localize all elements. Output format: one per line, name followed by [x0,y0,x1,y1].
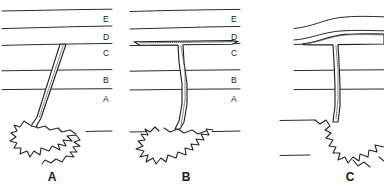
panel-c: C [280,16,384,184]
strata-boundary-line [2,89,112,90]
layer-label-c: C [231,48,237,58]
strata-boundary-line [130,26,240,29]
panel-a-pluton [10,121,80,164]
panel-a: E D C B A A [2,9,112,184]
panel-a-layer-labels: E D C B A [103,14,109,104]
panel-label-a: A [48,170,57,184]
panel-b: E D C B A B [130,9,240,184]
dike-body [31,44,66,127]
layer-label-b: B [231,75,237,85]
strata-boundary-line [2,9,112,11]
figure-canvas: E D C B A A E D [0,0,384,187]
strata-boundary-line [212,131,240,132]
geology-cross-section-figure: E D C B A A E D [0,0,384,187]
panel-c-laccolith [303,34,384,122]
layer-label-a: A [231,94,237,104]
strata-boundary-line [130,9,240,11]
sill-and-dike-body [134,41,238,129]
strata-boundary-domed-line [294,16,384,28]
magma-body-detail [379,157,384,161]
panel-b-sill [134,41,238,129]
layer-label-b: B [103,75,109,85]
layer-label-a: A [103,94,109,104]
layer-label-e: E [231,14,237,24]
strata-boundary-line [86,131,112,132]
panel-b-pluton [136,127,213,164]
panel-c-pluton [315,120,384,167]
magma-body-outline [10,121,80,164]
panel-b-layer-labels: E D C B A [231,14,237,104]
layer-label-c: C [103,48,109,58]
magma-body-detail [33,124,76,134]
strata-boundary-line [2,26,112,29]
panel-label-c: C [346,170,355,184]
magma-body-outline [315,120,384,163]
layer-label-d: D [231,32,237,42]
magma-body-detail [353,160,370,167]
laccolith-body [303,34,384,122]
panel-a-dike [31,44,66,127]
layer-label-d: D [103,32,109,42]
strata-boundary-line [2,43,112,45]
strata-boundary-line [280,155,310,156]
strata-boundary-line [280,120,315,121]
layer-label-e: E [103,14,109,24]
panel-label-b: B [182,170,191,184]
dike-texture [39,46,63,118]
